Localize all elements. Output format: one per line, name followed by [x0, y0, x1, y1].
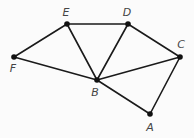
graph-diagram: ABCDEF	[0, 0, 194, 138]
node-b	[94, 77, 100, 83]
node-label-f: F	[10, 62, 17, 75]
node-label-d: D	[123, 6, 131, 19]
edge-d-b	[97, 24, 128, 80]
edge-b-a	[97, 80, 150, 114]
edges-group	[14, 24, 180, 114]
node-e	[64, 21, 70, 27]
edge-c-a	[150, 57, 180, 114]
node-label-b: B	[91, 86, 99, 99]
node-label-a: A	[145, 121, 154, 134]
node-a	[147, 111, 153, 117]
node-label-e: E	[63, 6, 70, 19]
edge-c-b	[97, 57, 180, 80]
node-f	[11, 54, 17, 60]
edge-e-b	[67, 24, 97, 80]
edge-d-c	[128, 24, 180, 57]
node-c	[177, 54, 183, 60]
edge-e-f	[14, 24, 67, 57]
labels-group: ABCDEF	[10, 6, 185, 134]
nodes-group	[11, 21, 183, 117]
node-label-c: C	[177, 38, 185, 51]
node-d	[125, 21, 131, 27]
edge-b-f	[14, 57, 97, 80]
